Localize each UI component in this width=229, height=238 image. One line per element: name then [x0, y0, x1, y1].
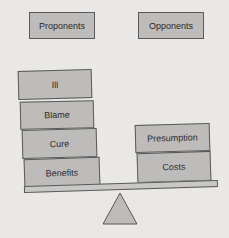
opponents-box: Opponents: [138, 12, 204, 39]
cure-label: Cure: [50, 138, 70, 149]
left-stack-item-cure: Cure: [22, 128, 98, 159]
left-stack-item-ill: Ill: [18, 69, 93, 100]
proponents-label: Proponents: [39, 21, 85, 31]
opponents-label: Opponents: [149, 21, 193, 31]
left-stack-item-blame: Blame: [20, 100, 95, 130]
costs-label: Costs: [162, 162, 185, 173]
ill-label: Ill: [52, 79, 59, 89]
right-stack-item-costs: Costs: [137, 151, 212, 183]
presumption-label: Presumption: [147, 132, 198, 143]
right-stack-item-presumption: Presumption: [135, 123, 211, 153]
blame-label: Blame: [44, 110, 70, 121]
benefits-label: Benefits: [46, 167, 79, 178]
proponents-box: Proponents: [29, 12, 95, 39]
fulcrum-triangle-icon: [102, 192, 138, 226]
